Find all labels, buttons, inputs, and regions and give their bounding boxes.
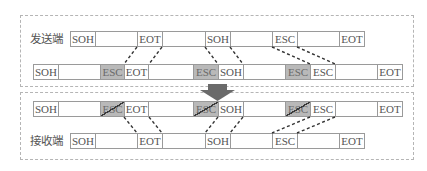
stuffed-esc-inserted-2: ESC — [193, 64, 219, 80]
stuffed-eot-1: EOT — [124, 64, 149, 80]
receiver-data-2 — [162, 133, 206, 149]
sender-data-2 — [162, 31, 206, 47]
received-frame: SOH ESC EOT ESC SOH ESC ESC EOT — [0, 101, 427, 117]
stuffed-soh-1: SOH — [33, 64, 59, 80]
received-data-3 — [243, 101, 286, 117]
received-esc-removed-1: ESC — [100, 101, 125, 117]
receiver-eot-2: EOT — [339, 133, 365, 149]
stuffed-frame: SOH ESC EOT ESC SOH ESC ESC EOT — [0, 64, 427, 80]
stuffed-data-1 — [58, 64, 101, 80]
stuffed-esc-inserted-1: ESC — [100, 64, 125, 80]
stuffed-esc-1: ESC — [310, 64, 336, 80]
received-eot-1: EOT — [124, 101, 149, 117]
sender-eot-2: EOT — [339, 31, 365, 47]
received-esc-removed-3: ESC — [285, 101, 311, 117]
stuffed-data-2 — [148, 64, 194, 80]
sender-esc-1: ESC — [272, 31, 298, 47]
received-eot-2: EOT — [377, 101, 403, 117]
receiver-esc-1: ESC — [272, 133, 298, 149]
sender-eot-1: EOT — [137, 31, 163, 47]
received-esc-removed-2: ESC — [193, 101, 219, 117]
receiver-data-4 — [297, 133, 340, 149]
sender-data-3 — [230, 31, 273, 47]
sender-soh-2: SOH — [205, 31, 231, 47]
receiver-frame: SOH EOT SOH ESC EOT — [0, 133, 427, 149]
sender-data-1 — [95, 31, 138, 47]
sender-data-4 — [297, 31, 340, 47]
stuffed-eot-2: EOT — [377, 64, 403, 80]
received-data-2 — [148, 101, 194, 117]
receiver-soh-2: SOH — [205, 133, 231, 149]
received-data-4 — [335, 101, 378, 117]
stuffed-data-4 — [335, 64, 378, 80]
received-esc-1: ESC — [310, 101, 336, 117]
received-data-1 — [58, 101, 101, 117]
received-soh-2: SOH — [218, 101, 244, 117]
sender-frame: SOH EOT SOH ESC EOT — [0, 31, 427, 47]
stuffed-soh-2: SOH — [218, 64, 244, 80]
stuffed-esc-inserted-3: ESC — [285, 64, 311, 80]
sender-soh-1: SOH — [70, 31, 96, 47]
receiver-data-1 — [95, 133, 138, 149]
receiver-soh-1: SOH — [70, 133, 96, 149]
receiver-eot-1: EOT — [137, 133, 163, 149]
received-soh-1: SOH — [33, 101, 59, 117]
stuffed-data-3 — [243, 64, 286, 80]
receiver-data-3 — [230, 133, 273, 149]
